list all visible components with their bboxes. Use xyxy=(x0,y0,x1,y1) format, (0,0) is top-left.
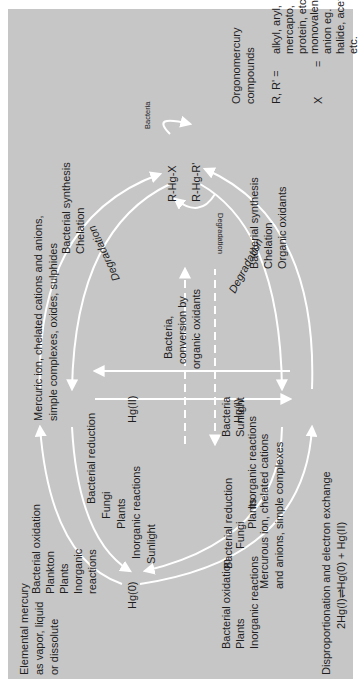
svg-text:2Hg(I)⇌Hg(0) + Hg(II): 2Hg(I)⇌Hg(0) + Hg(II) xyxy=(335,522,347,629)
svg-text:Disproportionation and electro: Disproportionation and electron exchange xyxy=(320,471,332,675)
svg-text:Bacterial reduction: Bacterial reduction xyxy=(222,478,234,569)
svg-text:Inorganic reactions: Inorganic reactions xyxy=(130,466,142,559)
svg-text:monovalent: monovalent xyxy=(308,0,320,54)
svg-text:Fungi: Fungi xyxy=(100,491,112,519)
svg-text:halide, acetate,: halide, acetate, xyxy=(334,0,346,54)
process-org-cycle-top: Bacteria xyxy=(143,101,152,129)
svg-text:reactions: reactions xyxy=(86,549,98,594)
svg-text:R, R' =: R, R' = xyxy=(270,70,282,104)
svg-text:and anions, simple complexes: and anions, simple complexes xyxy=(273,441,285,589)
svg-text:as vapor, liquid: as vapor, liquid xyxy=(33,602,45,675)
svg-text:Bacterial reduction: Bacterial reduction xyxy=(85,413,97,504)
svg-text:Plankton: Plankton xyxy=(44,551,56,594)
svg-text:alkyl, aryl,: alkyl, aryl, xyxy=(270,5,282,54)
svg-text:simple complexes, oxides, sulp: simple complexes, oxides, sulphides xyxy=(47,243,59,421)
svg-text:Inorganic reactions: Inorganic reactions xyxy=(248,556,260,649)
svg-text:Inorganic reactions: Inorganic reactions xyxy=(246,416,258,509)
mercury-cycle-diagram: Elemental mercury as vapor, liquid or di… xyxy=(0,0,362,689)
svg-text:compounds: compounds xyxy=(244,47,256,104)
species-hg1: Hg(I) xyxy=(232,399,244,423)
species-rhgx: R-Hg-X xyxy=(166,165,178,202)
svg-text:Plants: Plants xyxy=(115,498,127,529)
svg-text:Bacteria,: Bacteria, xyxy=(162,316,174,359)
svg-text:organic oxidants: organic oxidants xyxy=(190,288,202,369)
process-org-cycle-bottom: Degradation xyxy=(216,213,225,254)
svg-text:etc.: etc. xyxy=(347,36,359,54)
species-hg2: Hg(II) xyxy=(126,396,138,424)
svg-text:mercapto,: mercapto, xyxy=(283,5,295,54)
svg-text:Bacterial oxidation: Bacterial oxidation xyxy=(220,559,232,649)
svg-text:Bacteria: Bacteria xyxy=(220,396,232,437)
svg-text:X: X xyxy=(312,96,324,104)
svg-text:Organic oxidants: Organic oxidants xyxy=(276,186,288,269)
species-hg0: Hg(0) xyxy=(126,581,138,609)
svg-text:or dissolute: or dissolute xyxy=(48,619,60,675)
svg-text:Inorganic: Inorganic xyxy=(72,548,84,594)
svg-text:Fungi: Fungi xyxy=(234,521,246,549)
svg-text:Elemental mercury: Elemental mercury xyxy=(18,583,30,675)
svg-text:Chelation: Chelation xyxy=(262,223,274,269)
svg-text:Plants: Plants xyxy=(58,563,70,594)
svg-text:Bacterial oxidation: Bacterial oxidation xyxy=(30,504,42,594)
svg-text:=: = xyxy=(312,61,324,67)
svg-text:Plants: Plants xyxy=(234,618,246,649)
svg-text:anion eg.: anion eg. xyxy=(321,9,333,54)
svg-text:Chelation: Chelation xyxy=(74,208,86,254)
svg-text:conversion by: conversion by xyxy=(176,296,188,364)
species-rhgr: R-Hg-R' xyxy=(190,163,202,202)
svg-text:Mercuric ion, chelated cations: Mercuric ion, chelated cations and anion… xyxy=(32,216,44,421)
svg-text:Orgonomercury: Orgonomercury xyxy=(230,27,242,104)
svg-text:Bacterial synthesis: Bacterial synthesis xyxy=(60,162,72,254)
svg-text:Sunlight: Sunlight xyxy=(145,524,157,564)
svg-text:protein, etc.: protein, etc. xyxy=(296,0,308,54)
